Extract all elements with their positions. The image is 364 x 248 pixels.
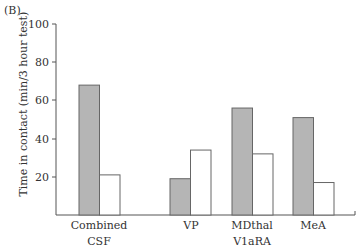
bar [170,179,191,215]
bar-chart: 20406080100 [0,0,364,248]
y-tick-label: 60 [35,94,49,107]
bar [79,85,100,215]
bar [232,108,253,215]
bar [100,175,121,215]
x-label-mdthal: MDthal [217,218,287,234]
y-tick-label: 80 [35,56,49,69]
y-tick-label: 20 [35,171,49,184]
bar [293,118,314,215]
x-label-combined-csf: Combined CSF [64,218,134,248]
y-tick-label: 100 [28,18,49,31]
bar [253,154,274,215]
bar [191,150,212,215]
x-label-line1: Combined [64,218,134,234]
y-tick-label: 40 [35,133,49,146]
x-label-line2: CSF [64,234,134,248]
x-label-mea: MeA [278,218,348,234]
x-label-group-v1ara: V1aRA [217,234,287,248]
bar [314,183,335,215]
x-label-vp: VP [156,218,226,234]
y-axis [52,24,56,215]
